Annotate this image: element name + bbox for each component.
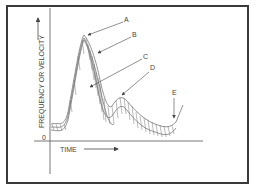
leader-c — [90, 59, 142, 87]
signal-hatching — [52, 38, 174, 137]
x-axis-label: TIME — [60, 146, 77, 153]
annotation-label-a: A — [124, 16, 129, 23]
leader-d — [122, 72, 149, 95]
annotation-label-e: E — [172, 89, 177, 96]
y-axis-label: FREQUENCY OR VELOCITY — [38, 35, 45, 128]
origin-label: 0 — [42, 134, 46, 141]
annotation-label-d: D — [150, 64, 155, 71]
leader-b — [98, 37, 131, 53]
annotation-label-c: C — [143, 53, 148, 60]
leader-a — [88, 22, 123, 35]
signal-band — [51, 35, 183, 135]
annotation-label-b: B — [132, 31, 137, 38]
